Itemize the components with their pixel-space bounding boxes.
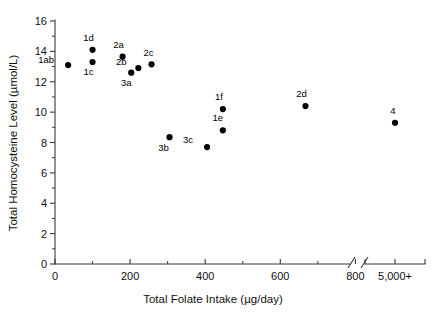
data-point-label: 1d: [83, 32, 94, 43]
y-tick-label: 8: [41, 137, 47, 149]
scatter-chart: 0246810121416 02004006008005,000+ 1ab1d1…: [0, 0, 435, 318]
data-point-label: 1c: [84, 66, 94, 77]
data-point-label: 2c: [143, 47, 153, 58]
data-point: [166, 134, 172, 140]
data-point-label: 2a: [113, 39, 124, 50]
y-tick-label: 2: [41, 228, 47, 240]
data-point: [65, 62, 71, 68]
x-tick-label: 400: [196, 270, 214, 282]
y-tick-label: 4: [41, 197, 47, 209]
axis-break-mark-left: [348, 257, 355, 268]
data-point: [135, 65, 141, 71]
data-point-label: 4: [390, 105, 395, 116]
data-point: [128, 70, 134, 76]
x-tick-label: 200: [121, 270, 139, 282]
x-tick-label: 600: [271, 270, 289, 282]
y-tick-label: 16: [35, 15, 47, 27]
data-point: [302, 103, 308, 109]
y-tick-label: 6: [41, 167, 47, 179]
data-point: [392, 120, 398, 126]
data-point: [220, 127, 226, 133]
data-point-label: 2d: [296, 88, 307, 99]
x-axis: 02004006008005,000+: [52, 257, 425, 282]
data-point: [204, 144, 210, 150]
data-point-label: 2b: [116, 56, 127, 67]
y-tick-label: 10: [35, 106, 47, 118]
data-point: [148, 61, 154, 67]
data-point: [89, 59, 95, 65]
plot-area: 0246810121416 02004006008005,000+ 1ab1d1…: [0, 0, 435, 318]
data-point-label: 3b: [158, 142, 169, 153]
x-axis-title: Total Folate Intake (µg/day): [143, 293, 283, 305]
data-point-label: 3c: [183, 134, 193, 145]
data-point-label: 1e: [213, 112, 224, 123]
data-points-group: 1ab1d1c2a2b2c3a3b3c1e1f2d4: [38, 32, 398, 153]
y-tick-label: 0: [41, 258, 47, 270]
data-point-label: 1f: [215, 91, 223, 102]
data-point: [89, 47, 95, 53]
x-tick-label: 0: [52, 270, 58, 282]
data-point-label: 3a: [121, 77, 132, 88]
x-tick-label: 800: [346, 270, 364, 282]
data-point-label: 1ab: [38, 54, 54, 65]
y-tick-label: 12: [35, 76, 47, 88]
y-axis-title: Total Homocysteine Level (µmol/L): [7, 55, 19, 232]
x-tick-label-broken: 5,000+: [378, 270, 412, 282]
data-point: [220, 106, 226, 112]
